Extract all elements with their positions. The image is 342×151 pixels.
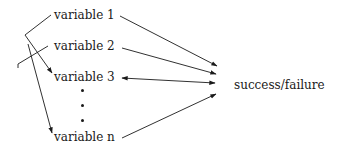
edge-v2-to-vn — [18, 46, 48, 68]
edge-v2-to-outcome — [122, 48, 216, 74]
ellipsis-dot — [81, 119, 84, 122]
ellipsis-dot — [81, 89, 84, 92]
edge-v1-to-v3 — [25, 15, 52, 73]
node-variable-2: variable 2 — [54, 39, 115, 53]
node-variable-n: variable n — [54, 130, 115, 144]
edge-v3-outcome-bidirectional — [122, 78, 215, 83]
diagram-canvas: variable 1 variable 2 variable 3 variabl… — [0, 0, 342, 151]
node-variable-3: variable 3 — [54, 70, 115, 84]
edge-vn-path — [28, 44, 52, 133]
edge-vn-to-outcome — [122, 94, 216, 138]
edges-layer — [0, 0, 342, 151]
node-variable-1: variable 1 — [54, 8, 115, 22]
node-success-failure: success/failure — [234, 78, 325, 92]
ellipsis-dot — [81, 104, 84, 107]
edge-v1-to-outcome — [120, 16, 217, 66]
